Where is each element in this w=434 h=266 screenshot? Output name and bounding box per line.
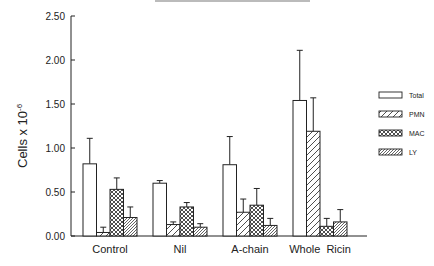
bar-ly xyxy=(124,218,138,236)
bar-mac xyxy=(110,189,124,236)
bar-ly xyxy=(334,222,348,236)
bar-total xyxy=(293,100,307,236)
bar-mac xyxy=(180,207,194,236)
legend-item-pmn: PMN xyxy=(379,111,425,118)
legend-item-ly: LY xyxy=(379,149,417,156)
y-tick-label: 2.00 xyxy=(46,55,66,66)
legend-swatch xyxy=(379,111,402,117)
bar-group-nil xyxy=(153,181,207,236)
y-axis-label: Cells x 10-6 xyxy=(15,103,30,168)
category-label: Control xyxy=(92,243,127,255)
bar-group-whole-ricin xyxy=(293,50,347,236)
bars xyxy=(83,50,347,236)
bar-group-a-chain xyxy=(223,137,277,236)
bar-total xyxy=(223,165,237,236)
bar-pmn xyxy=(167,225,181,236)
y-tick-label: 2.50 xyxy=(46,11,66,22)
legend-label: PMN xyxy=(409,111,425,118)
y-tick-label: 1.50 xyxy=(46,99,66,110)
y-tick-label: 0.00 xyxy=(46,231,66,242)
legend-swatch xyxy=(379,92,402,98)
legend-item-total: Total xyxy=(379,92,424,99)
bar-total xyxy=(83,164,97,236)
category-label: Nil xyxy=(174,243,187,255)
bar-pmn xyxy=(97,232,111,236)
bar-mac xyxy=(250,205,264,236)
bar-group-control xyxy=(83,138,137,236)
category-label: Whole Ricin xyxy=(289,243,351,255)
category-label: A-chain xyxy=(231,243,268,255)
legend-label: MAC xyxy=(409,130,425,137)
title-remnant xyxy=(155,0,310,2)
legend-label: Total xyxy=(409,92,424,99)
legend-label: LY xyxy=(409,149,417,156)
bar-ly xyxy=(264,225,278,236)
legend-item-mac: MAC xyxy=(379,130,425,137)
bar-mac xyxy=(320,226,334,236)
y-tick-label: 0.50 xyxy=(46,187,66,198)
y-axis: 0.000.501.001.502.002.50 xyxy=(46,11,75,242)
bar-chart: 0.000.501.001.502.002.50 ControlNilA-cha… xyxy=(0,0,434,266)
legend-swatch xyxy=(379,130,402,136)
bar-total xyxy=(153,183,167,236)
bar-pmn xyxy=(307,131,321,236)
legend-swatch xyxy=(379,149,402,155)
y-tick-label: 1.00 xyxy=(46,143,66,154)
legend: TotalPMNMACLY xyxy=(379,92,425,156)
category-labels: ControlNilA-chainWhole Ricin xyxy=(92,243,351,255)
bar-ly xyxy=(194,227,208,236)
bar-pmn xyxy=(237,212,251,236)
